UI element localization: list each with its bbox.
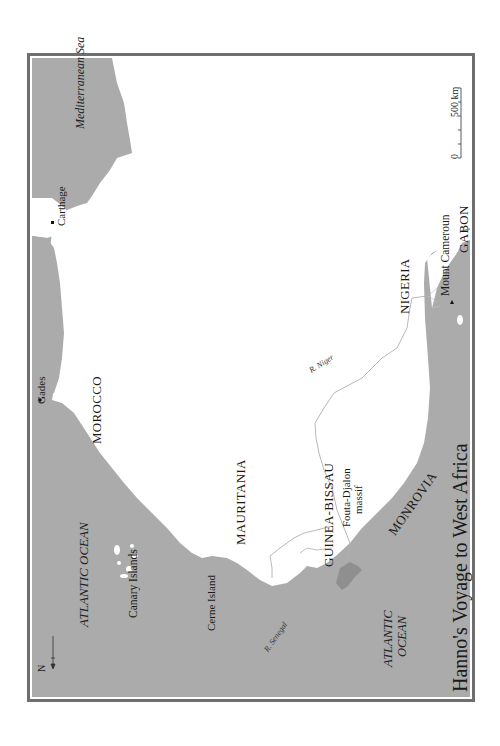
scale-bar-start-label: 0: [450, 154, 460, 159]
scale-bar-end-label: 500 km: [450, 87, 460, 117]
north-arrow: [51, 636, 55, 669]
label-canary-islands: Canary Islands: [128, 549, 140, 618]
label-nigeria: NIGERIA: [398, 258, 411, 314]
label-fouta-djalon-massif: massif: [353, 485, 364, 514]
label-atlantic-ocean-south-line2: OCEAN: [396, 616, 409, 657]
carthage-marker: [51, 221, 54, 224]
label-atlantic-ocean-south-line1: ATLANTIC: [382, 610, 395, 667]
label-gades: Gades: [36, 377, 47, 405]
label-cerne-island: Cerne Island: [206, 575, 217, 631]
map-title: Hanno's Voyage to West Africa: [450, 443, 470, 692]
lake-gabon: [457, 315, 463, 325]
label-morocco: MOROCCO: [90, 376, 103, 444]
fouta-djalon-massif-shape: [336, 562, 362, 590]
north-arrow-label: N: [37, 665, 47, 672]
label-mediterranean-sea: Mediterranean Sea: [74, 37, 86, 129]
label-fouta-djalon: Fouta-Djalon: [341, 468, 352, 527]
label-atlantic-ocean-north: ATLANTIC OCEAN: [77, 522, 90, 627]
label-mount-cameroun: Mount Cameroun: [440, 215, 452, 296]
label-guinea-bissau: GUINEA-BISSAU: [322, 463, 335, 567]
label-gabon: GABON: [457, 205, 470, 253]
label-carthage: Carthage: [56, 186, 67, 226]
label-mauritania: MAURITANIA: [234, 459, 247, 545]
